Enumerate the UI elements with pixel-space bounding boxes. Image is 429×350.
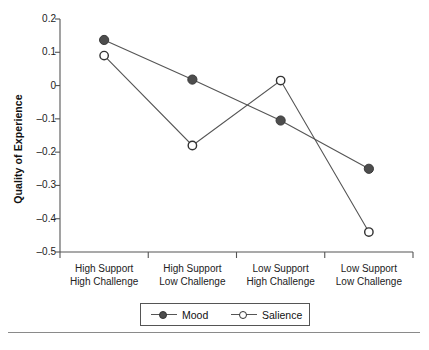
data-point-salience-2: [276, 76, 284, 84]
x-axis-tick-labels: High SupportHigh ChallengeHigh SupportLo…: [60, 262, 413, 302]
x-tick-label-line1: Low Support: [233, 262, 329, 275]
x-tick-label: Low SupportHigh Challenge: [233, 262, 329, 288]
mood-marker-icon: [151, 309, 177, 321]
data-point-salience-0: [100, 51, 108, 59]
series-line-salience: [104, 56, 369, 232]
x-tick-label-line2: Low Challenge: [321, 275, 417, 288]
data-point-mood-3: [364, 164, 373, 173]
data-point-mood-1: [188, 75, 197, 84]
legend-entry-mood: Mood: [151, 304, 208, 325]
series-line-mood: [104, 40, 369, 169]
data-point-salience-3: [365, 228, 373, 236]
x-tick-label-line2: High Challenge: [233, 275, 329, 288]
data-point-mood-0: [100, 35, 109, 44]
chart-figure: Quality of Experience 0.20.10–0.1–0.2–0.…: [0, 0, 429, 350]
x-tick-label-line1: Low Support: [321, 262, 417, 275]
data-point-mood-2: [276, 116, 285, 125]
legend-label-mood: Mood: [182, 309, 208, 321]
x-tick-label-line1: High Support: [144, 262, 240, 275]
figure-bottom-rule: [8, 332, 420, 333]
legend-entry-salience: Salience: [231, 304, 302, 325]
x-tick-label-line2: High Challenge: [56, 275, 152, 288]
chart-legend: Mood Salience: [140, 303, 310, 326]
x-tick-label: High SupportHigh Challenge: [56, 262, 152, 288]
x-tick-label-line2: Low Challenge: [144, 275, 240, 288]
data-point-salience-1: [188, 141, 196, 149]
x-tick-label-line1: High Support: [56, 262, 152, 275]
x-tick-label: Low SupportLow Challenge: [321, 262, 417, 288]
salience-marker-icon: [231, 309, 257, 321]
legend-label-salience: Salience: [262, 309, 302, 321]
x-tick-label: High SupportLow Challenge: [144, 262, 240, 288]
